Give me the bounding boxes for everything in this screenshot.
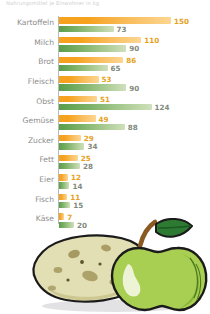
bar-value-green: 34 [87,142,97,151]
bar-value-orange: 110 [144,36,159,45]
bar-green [59,26,114,32]
bar-green [59,84,126,90]
category-label: Kartoffeln [0,18,54,27]
category-label: Brot [0,57,54,66]
category-label: Milch [0,38,54,47]
apple-stem-icon [140,222,155,246]
bar-orange [59,155,78,161]
food-consumption-chart: Nahrungsmittel je Einwohner in kg Kartof… [0,0,210,314]
bar-orange [59,174,68,180]
food-illustration [22,218,210,314]
bar-value-green: 28 [83,162,93,171]
bar-orange [59,76,99,82]
bar-row: Eier1214 [0,173,210,193]
bar-green [59,143,84,149]
chart-title: Nahrungsmittel je Einwohner in kg [6,0,206,6]
category-label: Fett [0,155,54,164]
plot-area: Kartoffeln15073Milch11090Brot8665Fleisch… [0,16,210,231]
bar-orange [59,17,171,23]
bar-value-green: 124 [155,103,170,112]
bar-value-green: 15 [73,201,83,210]
bar-orange [59,37,141,43]
bar-row: Kartoffeln15073 [0,16,210,36]
category-label: Eier [0,175,54,184]
bar-green [59,104,152,110]
bar-row: Fett2528 [0,153,210,173]
bar-orange [59,96,97,102]
bar-value-green: 90 [129,44,139,53]
bar-orange [59,57,123,63]
category-label: Fisch [0,195,54,204]
bar-row: Zucker2934 [0,134,210,154]
bar-row: Fisch1115 [0,192,210,212]
bar-orange [59,194,67,200]
bar-green [59,124,125,130]
bar-value-green: 90 [129,84,139,93]
bar-row: Gemüse4988 [0,114,210,134]
bar-row: Fleisch5390 [0,75,210,95]
bar-value-green: 88 [128,123,138,132]
bar-green [59,163,80,169]
bar-row: Milch11090 [0,36,210,56]
category-label: Obst [0,97,54,106]
bar-value-orange: 86 [126,56,136,65]
category-label: Zucker [0,136,54,145]
bar-value-green: 73 [117,25,127,34]
bar-value-orange: 150 [174,17,189,26]
bar-rows: Kartoffeln15073Milch11090Brot8665Fleisch… [0,16,210,232]
bar-value-orange: 53 [102,75,112,84]
bar-green [59,182,69,188]
category-label: Gemüse [0,116,54,125]
bar-value-orange: 49 [99,115,109,124]
bar-value-orange: 51 [100,95,110,104]
bar-row: Brot8665 [0,55,210,75]
bar-green [59,65,108,71]
bar-orange [59,135,81,141]
category-label: Fleisch [0,77,54,86]
bar-green [59,45,126,51]
bar-value-green: 65 [111,64,121,73]
bar-green [59,202,70,208]
bar-row: Obst51124 [0,94,210,114]
apple-icon [112,219,206,310]
bar-value-green: 14 [72,182,82,191]
bar-orange [59,115,96,121]
